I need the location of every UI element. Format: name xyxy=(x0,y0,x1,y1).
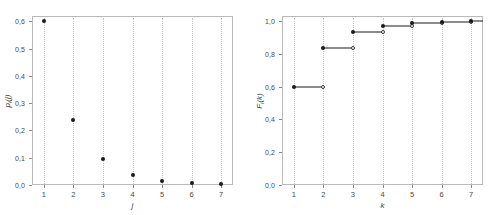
y-tick-label: 0,4 xyxy=(250,116,275,123)
y-tick-label: 0,0 xyxy=(0,182,25,189)
y-tick-mark xyxy=(29,130,32,131)
x-tick-label: 6 xyxy=(440,190,444,199)
x-tick-label: 6 xyxy=(190,190,194,199)
step-segment xyxy=(353,31,383,32)
y-tick-label: 0,6 xyxy=(0,18,25,25)
y-tick-label: 1,0 xyxy=(250,17,275,24)
y-tick-label: 0,0 xyxy=(250,182,275,189)
y-axis-title: pi(j) xyxy=(3,94,13,107)
x-tick-mark xyxy=(442,185,443,188)
step-segment xyxy=(294,86,324,87)
x-tick-mark xyxy=(162,185,163,188)
x-tick-mark xyxy=(353,185,354,188)
y-tick-mark xyxy=(279,152,282,153)
dropline-guide xyxy=(294,18,296,184)
dropline-guide xyxy=(133,18,135,184)
x-tick-mark xyxy=(471,185,472,188)
x-tick-label: 3 xyxy=(101,190,105,199)
x-tick-mark xyxy=(44,185,45,188)
data-point xyxy=(160,179,164,183)
y-tick-mark xyxy=(279,21,282,22)
x-tick-mark xyxy=(294,185,295,188)
x-tick-label: 7 xyxy=(219,190,223,199)
data-point xyxy=(190,181,194,185)
y-tick-label: 0,1 xyxy=(0,154,25,161)
y-tick-label: 0,8 xyxy=(250,50,275,57)
y-tick-mark xyxy=(279,119,282,120)
data-point xyxy=(321,46,325,50)
dropline-guide xyxy=(383,18,385,184)
dropline-guide xyxy=(73,18,75,184)
step-open-marker xyxy=(321,85,325,89)
data-point xyxy=(101,157,105,161)
dropline-guide xyxy=(323,18,325,184)
x-tick-label: 2 xyxy=(71,190,75,199)
y-tick-label: 0,5 xyxy=(0,45,25,52)
dropline-guide xyxy=(353,18,355,184)
x-tick-mark xyxy=(383,185,384,188)
y-tick-mark xyxy=(29,49,32,50)
step-segment xyxy=(412,23,442,24)
x-axis-title: j xyxy=(132,201,134,210)
x-tick-label: 4 xyxy=(380,190,384,199)
y-tick-label: 0,6 xyxy=(250,83,275,90)
panel-cdf: 0,00,20,40,60,81,01234567kFi(k) xyxy=(250,0,499,215)
x-tick-label: 1 xyxy=(42,190,46,199)
y-tick-mark xyxy=(29,76,32,77)
x-tick-label: 4 xyxy=(130,190,134,199)
step-segment xyxy=(442,22,472,23)
step-segment xyxy=(323,47,353,48)
dropline-guide xyxy=(44,18,46,184)
y-tick-label: 0,4 xyxy=(0,72,25,79)
y-tick-mark xyxy=(29,158,32,159)
data-point xyxy=(219,182,223,186)
x-tick-mark xyxy=(192,185,193,188)
y-tick-label: 0,2 xyxy=(0,127,25,134)
x-tick-label: 5 xyxy=(160,190,164,199)
dropline-guide xyxy=(471,18,473,184)
y-tick-mark xyxy=(29,103,32,104)
step-open-marker xyxy=(351,46,355,50)
x-axis-title: k xyxy=(381,201,385,210)
data-point xyxy=(469,19,473,23)
data-point xyxy=(440,20,444,24)
y-tick-mark xyxy=(29,21,32,22)
x-tick-mark xyxy=(323,185,324,188)
data-point xyxy=(42,19,46,23)
data-point xyxy=(71,118,75,122)
y-tick-mark xyxy=(29,185,32,186)
y-tick-label: 0,2 xyxy=(250,149,275,156)
x-tick-label: 5 xyxy=(410,190,414,199)
x-tick-mark xyxy=(133,185,134,188)
dropline-guide xyxy=(412,18,414,184)
x-tick-label: 2 xyxy=(321,190,325,199)
y-tick-mark xyxy=(279,54,282,55)
x-tick-mark xyxy=(412,185,413,188)
x-tick-mark xyxy=(103,185,104,188)
dropline-guide xyxy=(442,18,444,184)
y-tick-mark xyxy=(279,87,282,88)
dropline-guide xyxy=(221,18,223,184)
x-tick-mark xyxy=(73,185,74,188)
x-tick-label: 1 xyxy=(292,190,296,199)
y-axis-title: Fi(k) xyxy=(255,93,265,109)
data-point xyxy=(410,21,414,25)
data-point xyxy=(131,173,135,177)
y-tick-mark xyxy=(279,185,282,186)
x-tick-label: 3 xyxy=(351,190,355,199)
dropline-guide xyxy=(162,18,164,184)
x-tick-label: 7 xyxy=(469,190,473,199)
data-point xyxy=(292,85,296,89)
step-segment xyxy=(383,25,413,26)
dropline-guide xyxy=(192,18,194,184)
step-open-marker xyxy=(381,30,385,34)
data-point xyxy=(351,30,355,34)
figure-container: 0,00,10,20,30,40,50,61234567jpi(j) 0,00,… xyxy=(0,0,499,215)
data-point xyxy=(381,24,385,28)
panel-pmf: 0,00,10,20,30,40,50,61234567jpi(j) xyxy=(0,0,249,215)
